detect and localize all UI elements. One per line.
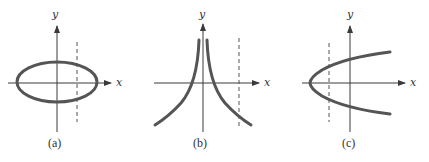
- panel-a: y x (a): [8, 8, 123, 150]
- panel-caption: (c): [342, 136, 355, 150]
- panel-c: y x (c): [302, 8, 417, 150]
- x-axis-label: x: [264, 76, 271, 89]
- figure-canvas: y x (a) y x (b) y x (c): [0, 0, 429, 162]
- y-axis-label: y: [198, 8, 206, 21]
- x-axis-label: x: [410, 76, 417, 89]
- panel-caption: (a): [48, 136, 61, 150]
- panel-b: y x (b): [154, 8, 271, 150]
- y-axis-label: y: [51, 8, 59, 21]
- y-axis-label: y: [346, 8, 354, 21]
- panel-caption: (b): [193, 136, 207, 150]
- x-axis-label: x: [116, 76, 123, 89]
